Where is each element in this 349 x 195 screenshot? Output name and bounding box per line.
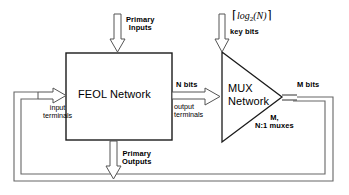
output-terminals-line2: terminals (174, 111, 203, 119)
primary-outputs-label: Primary Outputs (122, 150, 151, 166)
key-bits-arrow (215, 14, 229, 52)
primary-outputs-arrow (106, 141, 121, 179)
input-terminals-arrow (38, 88, 66, 103)
diagram-canvas: Primary Inputs Primary Outputs FEOL Netw… (0, 0, 349, 195)
feol-network-label: FEOL Network (78, 89, 151, 101)
input-terminals-label: input terminals (43, 104, 72, 120)
output-terminals-label: output terminals (174, 103, 203, 119)
n-bits-label: N bits (176, 81, 197, 89)
primary-inputs-arrow (110, 14, 125, 52)
primary-outputs-line2: Outputs (122, 158, 151, 166)
key-bits-label: key bits (230, 28, 259, 36)
m-bits-label: M bits (297, 81, 319, 89)
input-terminals-line2: terminals (43, 112, 72, 120)
log-argument: (N) (253, 10, 266, 21)
primary-inputs-line2: Inputs (126, 24, 155, 32)
log-base: log (237, 10, 250, 21)
mux-network-label-line2: Network (228, 96, 269, 108)
m-bits-bus (282, 95, 297, 100)
ceil-close-bracket: ⌉ (267, 8, 272, 22)
diagram-graphics (0, 0, 349, 195)
mux-annotation-label: M, N:1 muxes (255, 114, 294, 130)
mux-network-label-line1: MUX (228, 83, 253, 95)
primary-inputs-label: Primary Inputs (126, 16, 155, 32)
mux-annotation-line2: N:1 muxes (255, 122, 294, 130)
key-bits-math-label: ⌈log2(N)⌉ (232, 8, 272, 23)
